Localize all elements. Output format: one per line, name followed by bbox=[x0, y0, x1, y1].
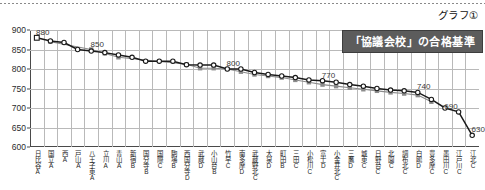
series-marker-primary bbox=[89, 49, 93, 53]
x-axis-label: 小山台B bbox=[210, 150, 217, 175]
series-marker-primary bbox=[171, 59, 175, 63]
x-axis-label: 新宿B bbox=[129, 150, 136, 169]
x-axis-label: 西A bbox=[61, 150, 68, 163]
x-axis-label: 三鷹D bbox=[346, 150, 353, 169]
chart-page: グラフ① 600650700750800850900 8808508007707… bbox=[0, 0, 485, 190]
series-marker-primary bbox=[307, 78, 311, 82]
y-tick-label: 650 bbox=[12, 123, 26, 133]
series-marker-primary bbox=[280, 74, 284, 78]
x-axis-label: 国立A bbox=[47, 150, 54, 169]
series-marker-primary bbox=[157, 59, 161, 63]
series-marker-primary bbox=[75, 47, 79, 51]
x-axis-label: 小金井北C bbox=[333, 150, 340, 181]
series-marker-primary bbox=[361, 84, 365, 88]
x-axis-label: 八王子東A bbox=[88, 150, 95, 181]
x-axis-label: 江北C bbox=[469, 150, 476, 169]
x-axis-label: 武蔵野北C bbox=[251, 150, 258, 181]
series-marker-primary bbox=[252, 70, 256, 74]
top-dotted-rule bbox=[0, 3, 485, 4]
point-value-label: 690 bbox=[444, 102, 457, 111]
series-marker-primary bbox=[103, 50, 107, 54]
series-marker-primary bbox=[211, 63, 215, 67]
x-axis-label: 竹早C bbox=[224, 150, 231, 169]
point-value-label: 850 bbox=[91, 40, 104, 49]
x-axis-label: 城東C bbox=[360, 150, 367, 169]
x-axis-label: 富士D bbox=[319, 150, 326, 169]
point-value-label: 880 bbox=[36, 28, 49, 37]
series-marker-primary bbox=[143, 59, 147, 63]
x-axis-label: 江戸川C bbox=[455, 150, 462, 175]
series-marker-primary bbox=[375, 86, 379, 90]
x-axis-label: 調布北C bbox=[401, 150, 408, 175]
series-marker-primary bbox=[429, 97, 433, 101]
series-marker-primary bbox=[48, 39, 52, 43]
point-value-label: 800 bbox=[227, 59, 240, 68]
x-axis-label: 国際C bbox=[156, 150, 163, 169]
x-axis-label: 日野台C bbox=[374, 150, 381, 175]
series-marker-primary bbox=[334, 80, 338, 84]
series-marker-primary bbox=[293, 75, 297, 79]
x-axis-label: 豊多摩C bbox=[428, 150, 435, 175]
x-axis-label: 白鴎D bbox=[414, 150, 421, 169]
x-axis-label: 戸山A bbox=[74, 150, 81, 169]
point-value-label: 630 bbox=[472, 125, 485, 134]
x-axis-label: 大泉D bbox=[265, 150, 272, 169]
y-tick-label: 700 bbox=[12, 103, 26, 113]
series-marker-primary bbox=[130, 55, 134, 59]
x-axis-label: 武蔵D bbox=[197, 150, 204, 169]
point-value-label: 740 bbox=[417, 82, 430, 91]
x-axis-label: 国分寺B bbox=[142, 150, 149, 175]
x-axis-label: 立川A bbox=[102, 150, 109, 169]
series-marker-primary bbox=[62, 40, 66, 44]
series-marker-primary bbox=[402, 89, 406, 93]
x-axis-label: 南多摩D bbox=[238, 150, 245, 175]
y-tick-label: 600 bbox=[12, 142, 26, 152]
banner-title: 「協議会校」の合格基準 bbox=[342, 30, 483, 53]
y-tick-label: 850 bbox=[12, 45, 26, 55]
x-axis-label: 駒場B bbox=[170, 150, 177, 169]
series-marker-primary bbox=[348, 82, 352, 86]
y-tick-label: 750 bbox=[12, 84, 26, 94]
x-axis-label: 日比谷A bbox=[34, 150, 41, 175]
x-axis-label: 墨田川C bbox=[442, 150, 449, 175]
x-axis-label: 三田C bbox=[292, 150, 299, 169]
x-axis-labels: 日比谷A国立A西A戸山A八王子東A立川A青山A新宿B国分寺B国際C駒場B西国分寺… bbox=[30, 150, 479, 190]
x-axis-label: 西国分寺D bbox=[183, 150, 190, 181]
x-axis-label: 北園C bbox=[387, 150, 394, 169]
point-value-label: 770 bbox=[322, 71, 335, 80]
x-axis-label: 町田B bbox=[278, 150, 285, 169]
series-marker-primary bbox=[388, 88, 392, 92]
series-marker-primary bbox=[198, 63, 202, 67]
y-tick-label: 800 bbox=[12, 64, 26, 74]
x-axis-label: 青山A bbox=[115, 150, 122, 169]
y-tick-label: 900 bbox=[12, 25, 26, 35]
series-marker-primary bbox=[116, 53, 120, 57]
graph-number-caption: グラフ① bbox=[438, 7, 479, 22]
series-marker-primary bbox=[266, 72, 270, 76]
x-axis-label: 小松川C bbox=[306, 150, 313, 175]
series-marker-primary bbox=[184, 63, 188, 67]
